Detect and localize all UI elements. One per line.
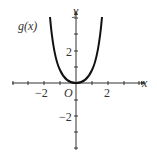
y-tick-label-2: 2 xyxy=(66,45,72,59)
origin-label: O xyxy=(64,86,73,100)
x-tick-label-neg2: −2 xyxy=(35,86,48,100)
graph-canvas: g(x) x y O −2 2 2 −2 xyxy=(0,0,157,155)
x-tick-label-2: 2 xyxy=(104,86,110,100)
function-label: g(x) xyxy=(18,19,37,33)
y-axis-label: y xyxy=(72,4,79,18)
x-axis-label: x xyxy=(141,76,148,90)
y-tick-label-neg2: −2 xyxy=(59,110,72,124)
